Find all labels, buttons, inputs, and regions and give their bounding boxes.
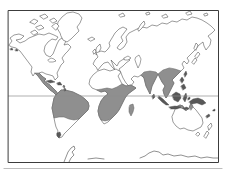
landmass-iceland [88, 37, 95, 41]
distribution-map-figure [0, 0, 226, 170]
antarctica-coastline [88, 151, 218, 159]
islands-philippines [180, 77, 186, 90]
world-map-svg [0, 0, 226, 170]
island-fiji [213, 109, 215, 111]
landmass-japan [192, 52, 200, 64]
island-sulawesi [183, 93, 187, 102]
island-sri-lanka [152, 94, 155, 99]
landmass-svalbard [119, 13, 125, 17]
landmass-ireland [93, 49, 96, 54]
landmass-franz-josef-land [146, 12, 150, 15]
landmass-north-america [9, 33, 71, 95]
canadian-arctic-islands [30, 14, 59, 35]
islands-moluccas [188, 97, 190, 100]
landmass-wrangel-island [204, 13, 208, 16]
landmass-new-zealand [204, 123, 212, 138]
landmass-severnaya-zemlya [162, 14, 168, 18]
island-new-caledonia [206, 114, 210, 118]
island-hispaniola [57, 82, 62, 85]
shade-tropical-south-america [52, 90, 89, 120]
landmass-new-siberian-islands [186, 11, 192, 15]
island-taiwan [184, 71, 187, 77]
island-borneo [172, 92, 181, 102]
shade-sub-saharan-africa [97, 84, 136, 121]
antarctic-peninsula [64, 146, 75, 162]
shade-india [141, 71, 158, 94]
island-madagascar [129, 104, 134, 116]
island-cuba [46, 80, 55, 83]
landmass-tasmania [196, 132, 200, 136]
landmass-greenland [57, 12, 82, 42]
island-sumatra [158, 96, 169, 105]
